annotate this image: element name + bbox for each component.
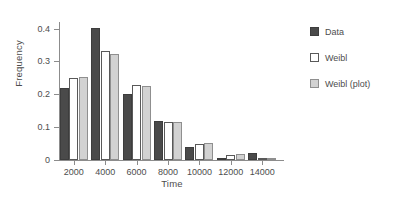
bar	[91, 28, 100, 160]
x-tick-mark	[231, 161, 232, 165]
y-tick-mark	[54, 29, 59, 30]
bar-group	[91, 22, 119, 160]
bar	[123, 94, 132, 160]
bar-group	[185, 22, 213, 160]
bar-group	[217, 22, 245, 160]
x-tick-mark	[168, 161, 169, 165]
x-tick-label: 6000	[127, 167, 147, 177]
x-tick-label: 8000	[158, 167, 178, 177]
bar	[217, 158, 226, 160]
bar	[69, 78, 78, 160]
bar	[142, 86, 151, 160]
y-tick-label: 0	[18, 155, 50, 165]
legend-swatch-icon	[310, 27, 319, 36]
chart-legend: DataWeiblWeibl (plot)	[310, 22, 370, 100]
bar	[258, 158, 267, 160]
bar-group	[154, 22, 182, 160]
legend-item: Weibl	[310, 48, 370, 67]
y-tick-label: 0.3	[18, 56, 50, 66]
x-tick-mark	[105, 161, 106, 165]
bar	[110, 54, 119, 160]
y-tick-mark	[54, 61, 59, 62]
y-tick-label: 0.2	[18, 89, 50, 99]
bar	[226, 155, 235, 160]
x-tick-label: 2000	[64, 167, 84, 177]
y-tick-mark	[54, 94, 59, 95]
x-tick-label: 14000	[250, 167, 275, 177]
bar	[79, 77, 88, 160]
bar-group	[123, 22, 151, 160]
bar	[236, 154, 245, 160]
legend-item: Data	[310, 22, 370, 41]
x-axis-line	[59, 160, 284, 161]
bar-groups	[62, 22, 282, 160]
x-tick-mark	[74, 161, 75, 165]
bar	[60, 88, 69, 160]
plot-area: 00.10.20.30.4 20004000600080001000012000…	[62, 22, 282, 160]
bar	[195, 144, 204, 160]
legend-label: Data	[325, 27, 344, 37]
legend-swatch-icon	[310, 53, 319, 62]
y-tick-label: 0.4	[18, 24, 50, 34]
x-tick-mark	[199, 161, 200, 165]
bar	[154, 121, 163, 160]
legend-label: Weibl (plot)	[325, 79, 370, 89]
bar-group	[248, 22, 276, 160]
bar	[132, 85, 141, 160]
x-tick-label: 10000	[187, 167, 212, 177]
bar	[185, 147, 194, 160]
x-axis-title: Time	[62, 178, 282, 189]
x-tick-label: 4000	[95, 167, 115, 177]
x-tick-mark	[137, 161, 138, 165]
legend-item: Weibl (plot)	[310, 74, 370, 93]
legend-swatch-icon	[310, 79, 319, 88]
bar-group	[60, 22, 88, 160]
y-tick-mark	[54, 160, 59, 161]
y-tick-label: 0.1	[18, 122, 50, 132]
y-tick-mark	[54, 127, 59, 128]
x-tick-mark	[262, 161, 263, 165]
bar	[173, 122, 182, 160]
bar	[101, 51, 110, 160]
x-tick-label: 12000	[218, 167, 243, 177]
bar	[267, 158, 276, 160]
bar	[164, 122, 173, 160]
bar-chart: Frequency 00.10.20.30.4 2000400060008000…	[0, 0, 397, 202]
legend-label: Weibl	[325, 53, 347, 63]
bar	[204, 143, 213, 160]
bar	[248, 153, 257, 160]
